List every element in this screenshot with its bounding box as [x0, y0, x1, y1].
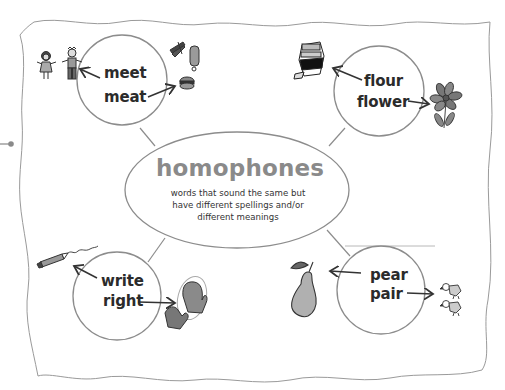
homophones-mind-map: homophones words that sound the same but… [0, 0, 505, 390]
arrow-meat [148, 86, 175, 97]
mittens-icon [165, 273, 211, 329]
word-right: right [103, 292, 143, 310]
birds-icon [440, 284, 461, 317]
flour-bag-icon [294, 42, 324, 79]
arrow-pear [330, 271, 361, 273]
word-meat: meat [104, 88, 146, 106]
word-pair: pair [370, 285, 403, 303]
word-meet: meet [104, 64, 146, 82]
crayon-icon [37, 246, 98, 268]
pear-icon [291, 262, 316, 317]
definition-line-3: different meanings [163, 211, 313, 223]
connector-bottom-left [148, 238, 165, 262]
definition-text: words that sound the same but have diffe… [163, 187, 313, 223]
word-pear: pear [370, 266, 408, 284]
word-write: write [101, 272, 144, 290]
definition-line-2: have different spellings and/or [163, 199, 313, 211]
node-circle-flour-flower [334, 46, 424, 136]
connector-top-left [140, 128, 155, 146]
arrow-right [138, 302, 175, 303]
arrow-flower [408, 101, 429, 104]
word-flower: flower [357, 93, 409, 111]
meat-icon [170, 42, 199, 89]
connector-top-right [329, 128, 345, 146]
diagram-title: homophones [156, 155, 324, 181]
definition-line-1: words that sound the same but [163, 187, 313, 199]
pin-dot [8, 141, 14, 147]
arrow-pair [407, 293, 433, 294]
children-icon [37, 47, 82, 79]
flower-icon [429, 81, 462, 128]
connector-bottom-right [327, 230, 350, 256]
arrow-meet [80, 69, 100, 78]
word-flour: flour [364, 72, 403, 90]
